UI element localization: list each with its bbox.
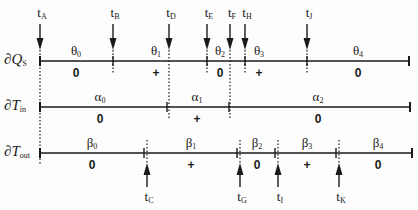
segment-label-subscript: 1	[192, 142, 196, 151]
segment-label: θ1	[151, 44, 161, 59]
segment-label-subscript: 0	[101, 96, 105, 105]
event-label-tG: tG	[237, 190, 246, 205]
segment-label-text: β	[373, 135, 380, 150]
event-label-tK: tK	[336, 190, 345, 205]
segment-label-subscript: 2	[221, 50, 225, 59]
qualitative-timeline-diagram: ∂QSθ00θ1+θ20θ3+θ40∂Tinα00α1+α20∂Toutβ00β…	[0, 0, 418, 210]
segment-sign: +	[187, 159, 194, 171]
event-label-tA: tA	[37, 6, 46, 21]
segment-sign: 0	[89, 159, 96, 171]
event-label-tI-subscript: I	[280, 196, 283, 205]
segment-sign-text: +	[303, 158, 310, 172]
segment-label: θ0	[71, 44, 81, 59]
segment-label-subscript: 1	[157, 50, 161, 59]
down-arrow-icon	[242, 38, 249, 50]
event-label-tC-subscript: C	[148, 196, 153, 205]
segment-label: β4	[373, 136, 384, 151]
row-label-Tout: ∂Tout	[4, 144, 30, 160]
segment-sign-text: +	[255, 66, 262, 80]
down-arrow-icon	[227, 38, 234, 50]
segment-sign-text: 0	[315, 112, 322, 126]
segment-label-subscript: 0	[77, 50, 81, 59]
event-label-tF: tF	[228, 6, 236, 21]
segment-sign-text: 0	[73, 66, 80, 80]
segment-label-text: β	[186, 135, 193, 150]
segment-label-text: α	[95, 89, 102, 104]
event-label-tD-subscript: D	[170, 12, 176, 21]
event-label-tF-subscript: F	[232, 12, 236, 21]
segment-sign: 0	[217, 67, 224, 79]
event-label-tB-subscript: B	[114, 12, 119, 21]
row-label-var: ∂T	[4, 143, 20, 159]
segment-sign-text: +	[152, 66, 159, 80]
segment-sign-text: +	[187, 158, 194, 172]
event-label-tK-subscript: K	[340, 196, 346, 205]
row-label-subscript: in	[20, 105, 26, 114]
segment-label: α2	[313, 90, 324, 105]
segment-sign-text: 0	[375, 158, 382, 172]
segment-sign: +	[303, 159, 310, 171]
segment-sign-text: 0	[97, 112, 104, 126]
segment-label-subscript: 3	[260, 50, 264, 59]
segment-label-subscript: 2	[319, 96, 323, 105]
segment-label: β0	[87, 136, 98, 151]
segment-label: α1	[192, 90, 203, 105]
segment-label: β2	[252, 136, 263, 151]
segment-sign-text: +	[193, 112, 200, 126]
event-label-tJ: tJ	[306, 6, 313, 21]
segment-sign: 0	[355, 67, 362, 79]
event-label-tC: tC	[145, 190, 154, 205]
segment-sign-text: 0	[89, 158, 96, 172]
event-label-tB: tB	[111, 6, 120, 21]
segment-label: θ4	[353, 44, 363, 59]
segment-sign: 0	[375, 159, 382, 171]
row-label-var: ∂T	[4, 97, 20, 113]
segment-label-subscript: 1	[198, 96, 202, 105]
segment-label-text: β	[87, 135, 94, 150]
event-label-tD: tD	[166, 6, 175, 21]
segment-sign: +	[255, 67, 262, 79]
down-arrow-icon	[204, 38, 211, 50]
row-label-Tin: ∂Tin	[4, 98, 26, 114]
event-label-tJ-subscript: J	[309, 12, 312, 21]
segment-sign-text: 0	[355, 66, 362, 80]
down-arrow-icon	[37, 38, 44, 50]
segment-label-subscript: 0	[93, 142, 97, 151]
segment-sign: 0	[254, 159, 261, 171]
segment-sign-text: 0	[217, 66, 224, 80]
row-label-Qs: ∂QS	[4, 52, 27, 68]
event-label-tE: tE	[205, 6, 214, 21]
event-label-tI: tI	[277, 190, 283, 205]
segment-label: β3	[302, 136, 313, 151]
segment-label-text: β	[252, 135, 259, 150]
segment-label-text: α	[313, 89, 320, 104]
segment-label-subscript: 4	[379, 142, 383, 151]
segment-sign: 0	[97, 113, 104, 125]
segment-label-subscript: 2	[258, 142, 262, 151]
segment-label-text: β	[302, 135, 309, 150]
event-label-tH-subscript: H	[246, 12, 252, 21]
segment-sign: +	[152, 67, 159, 79]
segment-sign-text: 0	[254, 158, 261, 172]
event-label-tG-subscript: G	[241, 196, 247, 205]
segment-label-subscript: 3	[308, 142, 312, 151]
down-arrow-icon	[304, 38, 311, 50]
segment-sign: +	[193, 113, 200, 125]
segment-label-text: α	[192, 89, 199, 104]
segment-label: θ2	[215, 44, 225, 59]
row-label-subscript: S	[22, 59, 26, 68]
segment-label: θ3	[254, 44, 264, 59]
segment-sign: 0	[73, 67, 80, 79]
segment-sign: 0	[315, 113, 322, 125]
segment-label-subscript: 4	[359, 50, 363, 59]
event-label-tA-subscript: A	[41, 12, 47, 21]
event-label-tH: tH	[242, 6, 251, 21]
timeline-lines	[0, 0, 418, 210]
down-arrow-icon	[110, 38, 117, 50]
segment-label: β1	[186, 136, 197, 151]
row-label-var: ∂Q	[4, 51, 22, 67]
segment-label: α0	[95, 90, 106, 105]
down-arrow-icon	[166, 38, 173, 50]
event-label-tE-subscript: E	[208, 12, 213, 21]
row-label-subscript: out	[20, 151, 30, 160]
